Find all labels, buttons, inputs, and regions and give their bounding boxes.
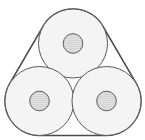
- roll-bottom-right-core: [97, 91, 117, 111]
- roll-bottom-right: [72, 67, 141, 136]
- roll-bottom-left: [5, 67, 74, 136]
- roll-top-core: [63, 34, 83, 54]
- roll-bottom-left-core: [30, 91, 50, 111]
- bundled-rolls-diagram: [0, 0, 145, 140]
